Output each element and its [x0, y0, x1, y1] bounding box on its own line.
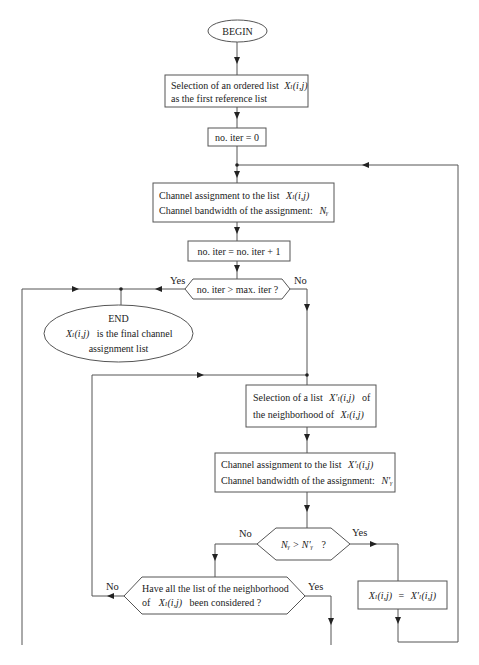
svg-text:Channel assignment to the list: Channel assignment to the list X'ₗ(i,j) — [221, 459, 374, 471]
end-title: END — [108, 313, 129, 324]
svg-text:Channel assignment to the list: Channel assignment to the list Xₗ(i,j) — [159, 190, 310, 202]
decision-compare-bandwidth: Nᵧ > N'ᵧ ? No Yes — [239, 527, 367, 560]
check-iter-no-label: No — [294, 275, 307, 286]
node-end: END Xₗ(i,j) is the final channel assignm… — [44, 305, 193, 362]
replace-lhs: Xₗ(i,j) — [368, 590, 393, 602]
assign-neighbor-line1: Channel assignment to the list — [221, 459, 342, 470]
check-iter-label: no. iter > max. iter ? — [197, 284, 279, 295]
assign-neighbor-math1: X'ₗ(i,j) — [347, 459, 374, 471]
select-neighbor-line2: the neighborhood of — [253, 409, 335, 420]
node-increment-iter: no. iter = no. iter + 1 — [188, 241, 290, 261]
assign-ref-math2: Nᵧ — [318, 205, 329, 216]
svg-text:Xₗ(i,j) is the final cha: Xₗ(i,j) is the final channel — [65, 328, 173, 340]
compare-question: ? — [321, 539, 326, 550]
select-ordered-line2: as the first reference list — [171, 93, 267, 104]
node-begin: BEGIN — [208, 20, 267, 42]
decision-check-iter: no. iter > max. iter ? Yes No — [170, 275, 307, 299]
select-neighbor-math1: X'ₗ(i,j) — [328, 392, 355, 404]
replace-eq: = — [399, 590, 405, 601]
assign-neighbor-math2: N'ᵧ — [380, 475, 393, 486]
svg-text:Channel bandwidth of the assig: Channel bandwidth of the assignment: Nᵧ — [159, 205, 329, 216]
svg-text:of Xₗ(i,j) been co: of Xₗ(i,j) been considered ? — [142, 597, 262, 609]
decision-all-considered: Have all the list of the neighborhood of… — [106, 577, 323, 614]
select-ordered-math: Xₗ(i,j) — [283, 80, 308, 92]
check-iter-yes-label: Yes — [170, 275, 185, 286]
select-neighbor-of: of — [362, 392, 371, 403]
assign-ref-line2: Channel bandwidth of the assignment: — [159, 205, 313, 216]
check-all-line1: Have all the list of the neighborhood — [142, 583, 289, 594]
end-line2: assignment list — [89, 343, 149, 354]
node-init-iter: no. iter = 0 — [208, 128, 266, 146]
select-neighbor-math2: Xₗ(i,j) — [340, 409, 365, 421]
compare-yes-label: Yes — [352, 527, 367, 538]
check-all-math: Xₗ(i,j) — [158, 597, 183, 609]
node-assign-reference: Channel assignment to the list Xₗ(i,j) C… — [153, 183, 334, 222]
node-replace-reference: Xₗ(i,j) = X'ₗ(i,j) — [358, 581, 447, 609]
check-all-line2: been considered ? — [190, 597, 262, 608]
end-line1: is the final channel — [97, 328, 173, 339]
check-all-pre: of — [142, 597, 151, 608]
select-neighbor-line1: Selection of a list — [253, 392, 323, 403]
svg-text:Xₗ(i,j) = X'ₗ(i,j): Xₗ(i,j) = X'ₗ(i,j) — [368, 590, 437, 602]
svg-text:Channel bandwidth of the assig: Channel bandwidth of the assignment: N'ᵧ — [221, 475, 393, 486]
check-all-no-label: No — [106, 581, 119, 592]
compare-math: Nᵧ > N'ᵧ — [280, 539, 314, 550]
node-select-neighbor: Selection of a list X'ₗ(i,j) of the neig… — [246, 385, 376, 427]
flowchart: BEGIN Selection of an ordered list Xₗ(i,… — [0, 0, 479, 665]
check-all-yes-label: Yes — [308, 581, 323, 592]
replace-rhs: X'ₗ(i,j) — [410, 590, 437, 602]
init-iter-label: no. iter = 0 — [215, 132, 259, 143]
end-math: Xₗ(i,j) — [65, 328, 90, 340]
svg-text:Selection of a list X'ₗ(: Selection of a list X'ₗ(i,j) of — [253, 392, 371, 404]
assign-ref-math1: Xₗ(i,j) — [285, 190, 310, 202]
assign-ref-line1: Channel assignment to the list — [159, 190, 280, 201]
begin-label: BEGIN — [222, 26, 253, 37]
node-select-ordered-list: Selection of an ordered list Xₗ(i,j) as … — [165, 75, 308, 107]
increment-iter-label: no. iter = no. iter + 1 — [198, 246, 281, 257]
svg-text:Selection of an ordered list: Selection of an ordered list Xₗ(i,j) — [171, 80, 308, 92]
select-ordered-line1: Selection of an ordered list — [171, 80, 279, 91]
node-assign-neighbor: Channel assignment to the list X'ₗ(i,j) … — [215, 453, 395, 492]
compare-no-label: No — [239, 528, 252, 539]
assign-neighbor-line2: Channel bandwidth of the assignment: — [221, 475, 375, 486]
svg-text:the neighborhood of Xₗ(i: the neighborhood of Xₗ(i,j) — [253, 409, 365, 421]
